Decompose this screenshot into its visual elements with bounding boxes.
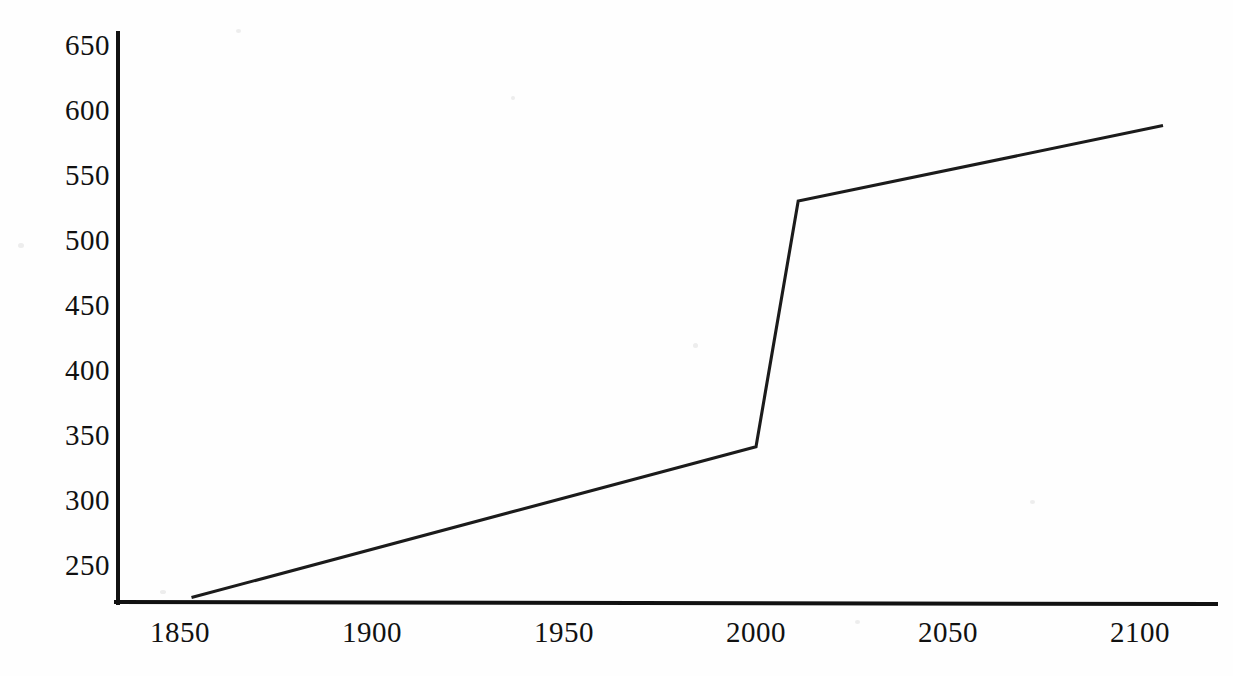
x-tick-label-2050: 2050 <box>918 618 978 647</box>
x-tick-label-1900: 1900 <box>342 618 402 647</box>
plot-area <box>0 0 1233 676</box>
y-tick-label-500: 500 <box>30 226 110 255</box>
x-tick-label-2000: 2000 <box>726 618 786 647</box>
x-tick-label-1850: 1850 <box>150 618 210 647</box>
y-tick-label-450: 450 <box>30 291 110 320</box>
y-tick-label-550: 550 <box>30 161 110 190</box>
x-tick-label-2100: 2100 <box>1110 618 1170 647</box>
chart-figure: 650 600 550 500 450 400 350 300 250 1850… <box>0 0 1233 676</box>
x-axis-line <box>116 602 1216 604</box>
x-tick-label-1950: 1950 <box>534 618 594 647</box>
y-tick-label-650: 650 <box>30 31 110 60</box>
y-tick-label-600: 600 <box>30 96 110 125</box>
y-tick-label-300: 300 <box>30 486 110 515</box>
data-series-line <box>192 126 1164 598</box>
y-tick-label-250: 250 <box>30 551 110 580</box>
y-tick-label-350: 350 <box>30 421 110 450</box>
y-tick-label-400: 400 <box>30 356 110 385</box>
